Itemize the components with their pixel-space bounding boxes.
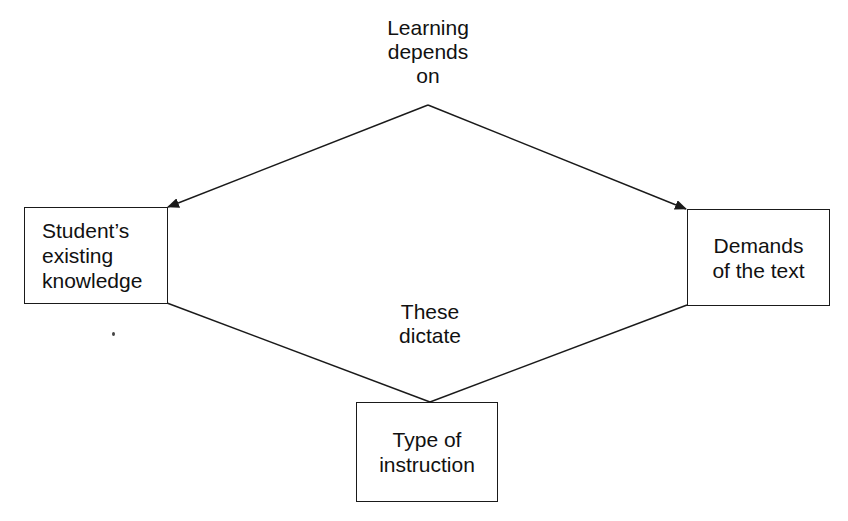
node-demands-text-line-1: Demands: [714, 233, 804, 258]
node-student-knowledge-line-2: existing: [42, 243, 113, 268]
speck-mark: [112, 332, 115, 336]
node-type-instruction: Type of instruction: [356, 402, 498, 502]
top-label: Learning depends on: [368, 16, 488, 88]
node-type-instruction-line-1: Type of: [393, 427, 462, 452]
node-student-knowledge-line-3: knowledge: [42, 268, 142, 293]
arrow-to-demands-text: [428, 105, 686, 209]
node-demands-text: Demands of the text: [687, 209, 830, 306]
node-type-instruction-line-2: instruction: [379, 452, 475, 477]
middle-label-line-1: These: [370, 300, 490, 324]
middle-label-line-2: dictate: [370, 324, 490, 348]
top-label-line-3: on: [368, 64, 488, 88]
node-demands-text-line-2: of the text: [712, 258, 804, 283]
node-student-knowledge-line-1: Student’s: [42, 218, 129, 243]
top-label-line-2: depends: [368, 40, 488, 64]
node-student-knowledge: Student’s existing knowledge: [24, 207, 168, 304]
top-label-line-1: Learning: [368, 16, 488, 40]
arrow-to-student-knowledge: [168, 105, 428, 207]
middle-label: These dictate: [370, 300, 490, 348]
